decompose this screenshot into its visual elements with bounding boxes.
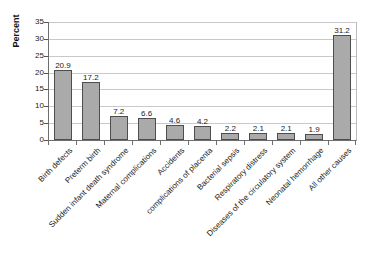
bar-value-label: 20.9 xyxy=(55,61,71,70)
bar-slot: 20.9 xyxy=(49,22,77,140)
y-tick-label: 10 xyxy=(28,102,44,110)
bar-chart: Percent 05101520253035 20.917.27.26.64.6… xyxy=(0,0,365,267)
bar[interactable]: 20.9 xyxy=(54,70,72,140)
y-tick-label: 35 xyxy=(28,18,44,26)
bar-value-label: 31.2 xyxy=(334,26,350,35)
y-axis-ticks: 05101520253035 xyxy=(26,22,44,140)
y-tick-label: 5 xyxy=(28,119,44,127)
bar-value-label: 17.2 xyxy=(83,73,99,82)
x-axis-labels: Birth defectsPreterm birthSudden infant … xyxy=(48,146,356,264)
bar-value-label: 6.6 xyxy=(141,109,152,118)
y-axis-title: Percent xyxy=(4,0,28,66)
bar-value-label: 7.2 xyxy=(113,107,124,116)
y-tick-label: 0 xyxy=(28,136,44,144)
y-tick-label: 25 xyxy=(28,52,44,60)
y-tick-label: 20 xyxy=(28,69,44,77)
x-axis-ticks xyxy=(48,141,356,145)
x-tick-mark xyxy=(48,141,49,145)
y-tick-label: 15 xyxy=(28,85,44,93)
y-tick-label: 30 xyxy=(28,35,44,43)
